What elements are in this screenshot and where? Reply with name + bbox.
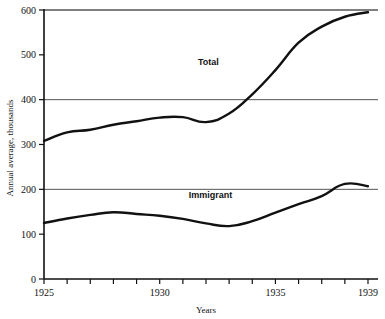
y-tick-label: 400: [21, 94, 36, 105]
series-label-total: Total: [198, 57, 219, 67]
y-axis-title: Annual average, thousands: [5, 99, 15, 197]
y-tick-label: 600: [21, 5, 36, 16]
y-tick-label: 500: [21, 49, 36, 60]
y-tick-label: 200: [21, 184, 36, 195]
chart-background: [0, 0, 385, 319]
x-tick-label: 1939: [358, 287, 378, 298]
x-tick-label: 1930: [150, 287, 170, 298]
y-tick-label: 100: [21, 229, 36, 240]
chart-canvas: 0100200300400500600 1925193019351939 Tot…: [0, 0, 385, 319]
series-label-immigrant: Immigrant: [189, 190, 233, 200]
x-axis-title: Years: [196, 305, 217, 315]
y-tick-label: 300: [21, 139, 36, 150]
x-tick-label: 1925: [34, 287, 54, 298]
y-tick-label: 0: [31, 274, 36, 285]
line-chart: 0100200300400500600 1925193019351939 Tot…: [0, 0, 385, 319]
x-tick-label: 1935: [265, 287, 285, 298]
